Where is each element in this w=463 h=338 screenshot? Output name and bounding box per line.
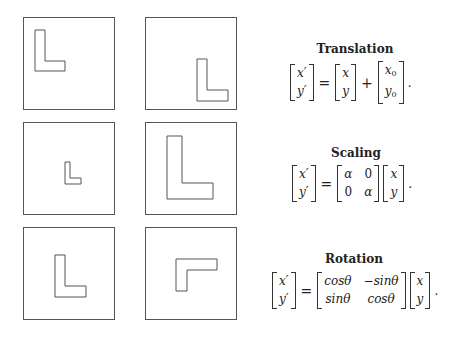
- matrix-cell: 0: [344, 185, 352, 200]
- matrix-cell: sinθ: [324, 292, 351, 307]
- matrix-cell: x′: [297, 66, 307, 81]
- equals-sign: =: [301, 283, 313, 299]
- rotation-before-panel: [23, 227, 115, 320]
- l-shape-icon: [24, 123, 116, 216]
- rotation-title: Rotation: [274, 252, 434, 266]
- translation-before-panel: [23, 17, 115, 110]
- translation-equation: x′ y′ = x y + x0 y0 .: [288, 63, 411, 102]
- equals-sign: =: [321, 176, 333, 192]
- l-shape-icon: [146, 18, 238, 111]
- matrix-cell: y′: [299, 185, 309, 200]
- input-vector: x y: [335, 66, 356, 99]
- matrix-cell: x: [342, 66, 349, 81]
- matrix-cell: y: [342, 84, 349, 99]
- l-shape-icon: [24, 228, 116, 321]
- matrix-cell: x′: [279, 274, 289, 289]
- input-vector: x y: [410, 274, 431, 307]
- equals-sign: =: [319, 75, 331, 91]
- rotation-after-panel: [145, 227, 237, 320]
- matrix-cell: cosθ: [364, 292, 399, 307]
- scaling-title: Scaling: [276, 146, 436, 160]
- matrix-cell: 0: [364, 167, 372, 182]
- plus-sign: +: [361, 75, 373, 91]
- matrix-cell: y: [417, 292, 424, 307]
- matrix-cell: y′: [279, 292, 289, 307]
- matrix-cell: cosθ: [324, 274, 351, 289]
- matrix-cell: α: [344, 167, 352, 182]
- rotation-equation: x′ y′ = cosθ −sinθ sinθ cosθ x y .: [270, 274, 438, 307]
- offset-vector: x0 y0: [378, 63, 404, 102]
- scale-matrix: α 0 0 α: [337, 167, 379, 200]
- l-shape-icon: [146, 123, 238, 216]
- scaling-after-panel: [145, 122, 237, 215]
- translation-after-panel: [145, 17, 237, 110]
- scaling-equation: x′ y′ = α 0 0 α x y .: [290, 167, 412, 200]
- l-shape-icon: [146, 228, 238, 321]
- matrix-cell: x: [390, 167, 397, 182]
- matrix-cell: −sinθ: [364, 274, 399, 289]
- matrix-cell: x0: [385, 63, 397, 81]
- translation-title: Translation: [275, 42, 435, 56]
- period: .: [408, 177, 412, 191]
- period: .: [434, 284, 438, 298]
- matrix-cell: y0: [385, 84, 397, 102]
- scaling-before-panel: [23, 122, 115, 215]
- period: .: [408, 76, 412, 90]
- input-vector: x y: [383, 167, 404, 200]
- lhs-vector: x′ y′: [272, 274, 296, 307]
- matrix-cell: α: [364, 185, 372, 200]
- matrix-cell: x: [417, 274, 424, 289]
- matrix-cell: y′: [297, 84, 307, 99]
- rotation-matrix: cosθ −sinθ sinθ cosθ: [317, 274, 405, 307]
- l-shape-icon: [24, 18, 116, 111]
- lhs-vector: x′ y′: [292, 167, 316, 200]
- lhs-vector: x′ y′: [290, 66, 314, 99]
- matrix-cell: x′: [299, 167, 309, 182]
- matrix-cell: y: [390, 185, 397, 200]
